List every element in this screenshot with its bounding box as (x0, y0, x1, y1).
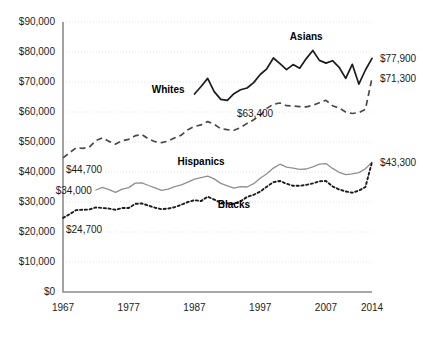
x-tick-label-1997: 1997 (249, 302, 272, 313)
annotation-hispanics-start: $34,000 (56, 185, 93, 196)
y-tick-label-10000: $10,000 (19, 256, 56, 267)
series-label-asians: Asians (290, 31, 323, 42)
annotation-whites-mid: $63,400 (237, 108, 274, 119)
annotation-whites-start: $44,700 (66, 164, 103, 175)
annotation-whites-end: $71,300 (380, 73, 417, 84)
series-label-blacks: Blacks (218, 199, 251, 210)
x-tick-label-1967: 1967 (52, 302, 75, 313)
x-axis-tick-labels: 196719771987199720072014 (52, 302, 384, 313)
y-tick-label-40000: $40,000 (19, 166, 56, 177)
x-tick-label-2014: 2014 (361, 302, 384, 313)
y-tick-label-60000: $60,000 (19, 106, 56, 117)
y-tick-label-20000: $20,000 (19, 226, 56, 237)
series-name-labels: AsiansWhitesHispanicsBlacks (152, 31, 323, 210)
median-household-income-line-chart: $0$10,000$20,000$30,000$40,000$50,000$60… (0, 0, 423, 339)
y-tick-label-90000: $90,000 (19, 16, 56, 27)
y-axis-tick-labels: $0$10,000$20,000$30,000$40,000$50,000$60… (19, 16, 56, 297)
series-line-whites (63, 78, 372, 158)
series-line-hispanics (96, 162, 372, 192)
y-tick-label-50000: $50,000 (19, 136, 56, 147)
chart-container: $0$10,000$20,000$30,000$40,000$50,000$60… (0, 0, 423, 339)
x-tick-label-2007: 2007 (315, 302, 338, 313)
series-label-whites: Whites (152, 84, 185, 95)
y-tick-label-0: $0 (44, 286, 56, 297)
x-tick-label-1987: 1987 (183, 302, 206, 313)
series-line-asians (194, 51, 372, 101)
y-tick-label-80000: $80,000 (19, 46, 56, 57)
y-tick-label-70000: $70,000 (19, 76, 56, 87)
annotation-blacks-start: $24,700 (66, 224, 103, 235)
annotation-asians-end: $77,900 (380, 53, 417, 64)
annotation-hispanics-end: $43,300 (380, 157, 417, 168)
x-tick-label-1977: 1977 (118, 302, 141, 313)
series-lines (63, 51, 372, 218)
series-label-hispanics: Hispanics (177, 156, 225, 167)
y-tick-label-30000: $30,000 (19, 196, 56, 207)
